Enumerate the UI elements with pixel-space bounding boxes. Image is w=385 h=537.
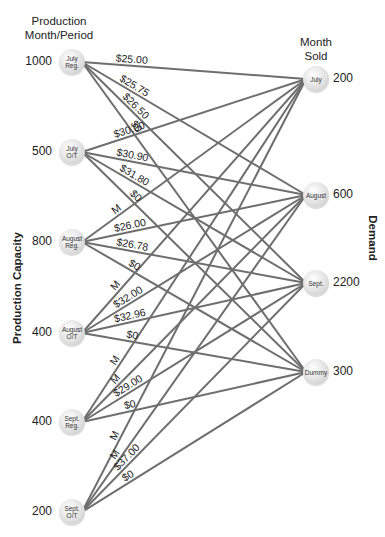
source-node-august-reg: AugustReg.	[59, 229, 85, 255]
node-label-line2: Reg.	[62, 242, 82, 249]
node-label-line1: July	[66, 145, 78, 152]
node-label: Sept.	[308, 280, 323, 287]
demand-label: Demand	[367, 213, 379, 263]
month-sold-header-line1: Month	[296, 35, 336, 49]
node-label-line2: Reg.	[65, 62, 79, 69]
capacity-value: 500	[22, 144, 52, 158]
source-node-sept-ot: Sept.O/T	[59, 499, 85, 525]
source-node-july-reg: JulyReg.	[59, 49, 85, 75]
production-header-line2: Month/Period	[14, 28, 104, 42]
source-node-august-ot: AugustO/T	[59, 320, 85, 346]
node-label: Dummy	[305, 369, 327, 376]
edge-cost-label: $0	[126, 328, 140, 342]
node-label-line2: Reg.	[64, 422, 79, 429]
node-label-line2: O/T	[66, 152, 78, 159]
edge-july-ot-to-july	[82, 79, 306, 152]
node-label-line2: O/T	[62, 333, 82, 340]
edge-july-ot-to-august	[82, 152, 306, 195]
capacity-value: 800	[22, 234, 52, 248]
production-header-line1: Production	[14, 14, 104, 28]
node-label-line1: August	[62, 326, 82, 333]
capacity-value: 1000	[22, 54, 52, 68]
edge-cost-label: $31.80	[118, 161, 152, 188]
edge-cost-label: $25.00	[115, 52, 148, 66]
node-label-line1: Sept.	[64, 415, 79, 422]
destination-node-july: July	[303, 66, 329, 92]
capacity-value: 200	[22, 504, 52, 518]
destination-node-august: August	[303, 182, 329, 208]
month-sold-header-line2: Sold	[296, 49, 336, 63]
capacity-value: 400	[22, 325, 52, 339]
node-label-line1: August	[62, 235, 82, 242]
demand-value: 600	[333, 187, 353, 201]
node-label-line1: July	[65, 55, 79, 62]
edge-cost-label: $0	[128, 187, 145, 204]
node-label-line1: Sept.	[64, 505, 79, 512]
month-sold-header: Month Sold	[296, 35, 336, 63]
node-label: August	[306, 192, 326, 199]
node-label-line2: O/T	[64, 512, 79, 519]
destination-node-dummy: Dummy	[303, 359, 329, 385]
demand-value: 2200	[333, 275, 360, 289]
node-label: July	[310, 76, 322, 83]
capacity-value: 400	[22, 414, 52, 428]
source-node-july-ot: JulyO/T	[59, 139, 85, 165]
edge-july-reg-to-july	[82, 62, 306, 79]
destination-node-sept: Sept.	[303, 270, 329, 296]
production-header: Production Month/Period	[14, 14, 104, 42]
demand-value: 300	[333, 364, 353, 378]
source-node-sept-reg: Sept.Reg.	[59, 409, 85, 435]
edge-cost-label: $0	[123, 397, 137, 411]
demand-value: 200	[333, 71, 353, 85]
